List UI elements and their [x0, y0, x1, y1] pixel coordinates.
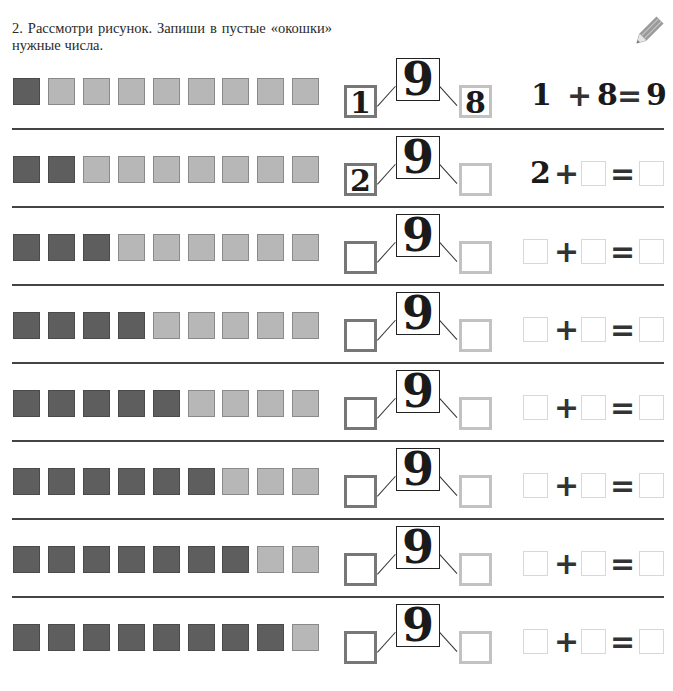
filled-square	[83, 312, 110, 339]
bond-connector-right	[439, 398, 457, 418]
bond-connector-right	[439, 632, 457, 652]
filled-square	[83, 234, 110, 261]
exercise-row: 9181+8=9	[0, 58, 673, 136]
bond-connector-right	[439, 476, 457, 496]
equation-result-box[interactable]	[639, 395, 664, 420]
bond-connector-left	[377, 554, 396, 575]
exercise-row: 9+=	[0, 604, 673, 682]
bond-left-box[interactable]	[344, 631, 377, 664]
empty-square	[257, 546, 284, 573]
empty-square	[292, 156, 319, 183]
bond-right-box[interactable]	[459, 553, 492, 586]
equation-term-b-box[interactable]	[581, 317, 606, 342]
equals-sign: =	[610, 395, 635, 420]
equals-sign: =	[610, 551, 635, 576]
filled-square	[153, 624, 180, 651]
filled-square	[13, 390, 40, 417]
plus-sign: +	[554, 161, 579, 186]
equation-result-box[interactable]	[639, 317, 664, 342]
filled-square	[188, 468, 215, 495]
exercise-row: 922+=	[0, 136, 673, 214]
bond-left-box[interactable]	[344, 553, 377, 586]
equation-term-b-box[interactable]	[581, 161, 606, 186]
filled-square	[118, 546, 145, 573]
equation-result-box[interactable]	[639, 161, 664, 186]
exercise-row: 9+=	[0, 292, 673, 370]
bond-total-box: 9	[396, 448, 440, 491]
empty-square	[292, 624, 319, 651]
equation-result-box[interactable]	[639, 239, 664, 264]
bond-left-box[interactable]	[344, 475, 377, 508]
row-divider	[12, 518, 664, 520]
bond-right-box[interactable]	[459, 163, 492, 196]
empty-square	[292, 312, 319, 339]
equation-term-b-box[interactable]	[581, 551, 606, 576]
bond-right-box[interactable]	[459, 631, 492, 664]
filled-square	[13, 546, 40, 573]
equation-term-a-box[interactable]	[523, 629, 548, 654]
filled-square	[48, 234, 75, 261]
bond-left-box[interactable]	[344, 397, 377, 430]
equation-term-a-box[interactable]	[523, 473, 548, 498]
bond-connector-right	[439, 242, 457, 262]
filled-square	[83, 624, 110, 651]
equation-term-b-box[interactable]	[581, 239, 606, 264]
row-divider	[12, 284, 664, 286]
filled-square	[48, 546, 75, 573]
bond-right-box[interactable]	[459, 241, 492, 274]
equation-term-b-box[interactable]	[581, 473, 606, 498]
filled-square	[13, 312, 40, 339]
empty-square	[222, 312, 249, 339]
empty-square	[188, 156, 215, 183]
plus-sign: +	[554, 239, 579, 264]
filled-square	[118, 390, 145, 417]
plus-sign: +	[554, 629, 579, 654]
exercise-row: 9+=	[0, 214, 673, 292]
filled-square	[13, 156, 40, 183]
pencil-icon	[630, 14, 666, 50]
empty-square	[292, 234, 319, 261]
filled-square	[118, 624, 145, 651]
empty-square	[118, 156, 145, 183]
filled-square	[222, 624, 249, 651]
bond-right-box: 8	[459, 85, 492, 118]
equation-result-box[interactable]	[639, 629, 664, 654]
equation-term-a-box[interactable]	[523, 239, 548, 264]
equation-term-a: 2	[530, 158, 551, 188]
empty-square	[257, 156, 284, 183]
equation-term-b-box[interactable]	[581, 629, 606, 654]
bond-left-box: 2	[344, 163, 377, 196]
equation-term-a-box[interactable]	[523, 317, 548, 342]
empty-square	[222, 78, 249, 105]
bond-left-box: 1	[344, 85, 377, 118]
empty-square	[188, 234, 215, 261]
equation-term-a-box[interactable]	[523, 395, 548, 420]
exercise-row: 9+=	[0, 448, 673, 526]
empty-square	[257, 234, 284, 261]
equation-term-a-box[interactable]	[523, 551, 548, 576]
bond-total-box: 9	[396, 214, 440, 257]
bond-right-box[interactable]	[459, 319, 492, 352]
bond-total-box: 9	[396, 604, 440, 647]
filled-square	[13, 468, 40, 495]
equals-sign: =	[610, 317, 635, 342]
plus-sign: +	[554, 395, 579, 420]
filled-square	[48, 312, 75, 339]
equation-result-box[interactable]	[639, 551, 664, 576]
bond-total-box: 9	[396, 526, 440, 569]
row-divider	[12, 206, 664, 208]
bond-left-box[interactable]	[344, 241, 377, 274]
equation-result-box[interactable]	[639, 473, 664, 498]
bond-left-box[interactable]	[344, 319, 377, 352]
empty-square	[153, 312, 180, 339]
bond-right-box[interactable]	[459, 475, 492, 508]
equation-term-b: 8	[597, 80, 618, 110]
bond-connector-left	[377, 632, 396, 653]
filled-square	[83, 390, 110, 417]
bond-right-box[interactable]	[459, 397, 492, 430]
bond-connector-left	[377, 320, 396, 341]
filled-square	[13, 78, 40, 105]
equation-term-b-box[interactable]	[581, 395, 606, 420]
filled-square	[83, 546, 110, 573]
filled-square	[83, 468, 110, 495]
